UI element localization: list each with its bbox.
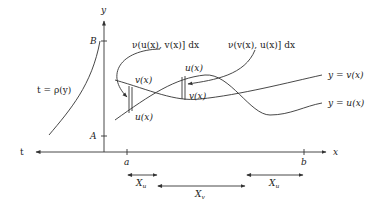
u-curve-label: y = u(x) bbox=[327, 98, 365, 108]
tick-label-a: a bbox=[124, 157, 129, 167]
tick-label-a-y: A bbox=[89, 131, 97, 141]
interval-xv-label: Xv bbox=[194, 189, 205, 200]
strip-left-callout-arrow bbox=[117, 49, 160, 97]
x-axis-label: x bbox=[333, 147, 338, 157]
strip-left-callout: ν(u(x), v(x)] dx bbox=[132, 40, 199, 50]
diagram-canvas: y x t B A a b t = ρ(y) y = v(x) y = u(x)… bbox=[0, 0, 380, 210]
strip-right-top-label: u(x) bbox=[185, 63, 203, 73]
interval-xu-left-label: Xu bbox=[135, 178, 146, 189]
strip-right-callout: ν(v(x), u(x)] dx bbox=[228, 40, 295, 50]
interval-xu-right-label: Xu bbox=[268, 178, 279, 189]
strip-left-bottom-label: u(x) bbox=[135, 112, 153, 122]
strip-right-bottom-label: v(x) bbox=[189, 91, 207, 101]
rho-label: t = ρ(y) bbox=[37, 85, 71, 95]
y-axis-label: y bbox=[100, 5, 107, 15]
t-axis-label: t bbox=[20, 147, 24, 157]
tick-label-b: B bbox=[89, 36, 97, 46]
strip-left-top-label: v(x) bbox=[135, 75, 153, 85]
v-curve-label: y = v(x) bbox=[327, 70, 364, 80]
tick-label-b-x: b bbox=[301, 157, 307, 167]
